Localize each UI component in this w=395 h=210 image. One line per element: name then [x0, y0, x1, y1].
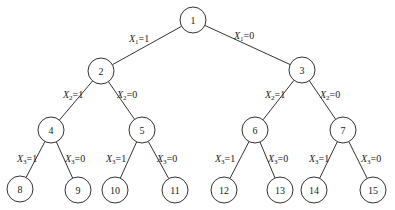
state-space-tree: X1=1X1=0X2=1X2=0X2=1X2=0X3=1X3=0X3=1X3=0… — [0, 0, 395, 210]
node-label: 3 — [300, 65, 305, 76]
tree-node-8: 8 — [7, 176, 33, 202]
tree-node-3: 3 — [289, 57, 315, 83]
edge-2-5 — [108, 82, 134, 120]
tree-node-15: 15 — [360, 177, 386, 203]
edge-label: X2=1 — [62, 89, 83, 102]
node-label: 13 — [275, 185, 285, 196]
edge-label: X2=0 — [116, 89, 137, 102]
tree-node-10: 10 — [102, 177, 128, 203]
edge-3-7 — [309, 81, 335, 120]
tree-node-6: 6 — [242, 117, 268, 143]
tree-node-14: 14 — [301, 177, 327, 203]
tree-node-9: 9 — [65, 177, 91, 203]
edge-label: X3=1 — [105, 153, 126, 166]
edge-label: X1=0 — [233, 30, 254, 43]
node-label: 5 — [140, 125, 145, 136]
node-label: 15 — [368, 185, 378, 196]
node-label: 8 — [18, 184, 23, 195]
edge-3-6 — [263, 80, 294, 120]
edge-label: X3=0 — [267, 153, 288, 166]
edge-label: X3=0 — [64, 153, 85, 166]
tree-nodes: 123456789101112131415 — [7, 7, 386, 203]
node-label: 7 — [341, 125, 346, 136]
tree-node-12: 12 — [211, 177, 237, 203]
tree-node-11: 11 — [162, 177, 188, 203]
tree-node-5: 5 — [129, 117, 155, 143]
tree-node-13: 13 — [267, 177, 293, 203]
tree-node-7: 7 — [330, 117, 356, 143]
node-label: 14 — [309, 185, 319, 196]
edge-2-4 — [59, 81, 92, 120]
edge-labels: X1=1X1=0X2=1X2=0X2=1X2=0X3=1X3=0X3=1X3=0… — [16, 30, 381, 166]
node-label: 11 — [170, 185, 180, 196]
edge-label: X1=1 — [128, 33, 149, 46]
tree-node-4: 4 — [38, 117, 64, 143]
tree-node-1: 1 — [180, 7, 206, 33]
node-label: 4 — [49, 125, 54, 136]
node-label: 12 — [219, 185, 229, 196]
node-label: 9 — [76, 185, 81, 196]
node-label: 6 — [253, 125, 258, 136]
edge-label: X3=0 — [156, 153, 177, 166]
edge-label: X2=1 — [264, 89, 285, 102]
node-label: 1 — [191, 15, 196, 26]
tree-node-2: 2 — [88, 58, 114, 84]
node-label: 2 — [99, 66, 104, 77]
edge-label: X3=1 — [16, 153, 37, 166]
edge-label: X3=1 — [214, 153, 235, 166]
edge-label: X3=0 — [360, 153, 381, 166]
node-label: 10 — [110, 185, 120, 196]
